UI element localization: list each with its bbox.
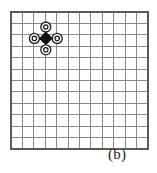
figure-panel: (b) (0, 0, 157, 173)
lattice-grid (0, 0, 157, 173)
circle-marker-up (41, 22, 51, 32)
diamond-marker (39, 32, 52, 45)
circle-marker-down (41, 45, 51, 55)
figure-caption: (b) (108, 147, 126, 162)
circle-marker-right (52, 33, 62, 43)
circle-marker-left (29, 33, 39, 43)
grid-lines (11, 12, 148, 149)
markers-layer (29, 22, 62, 55)
